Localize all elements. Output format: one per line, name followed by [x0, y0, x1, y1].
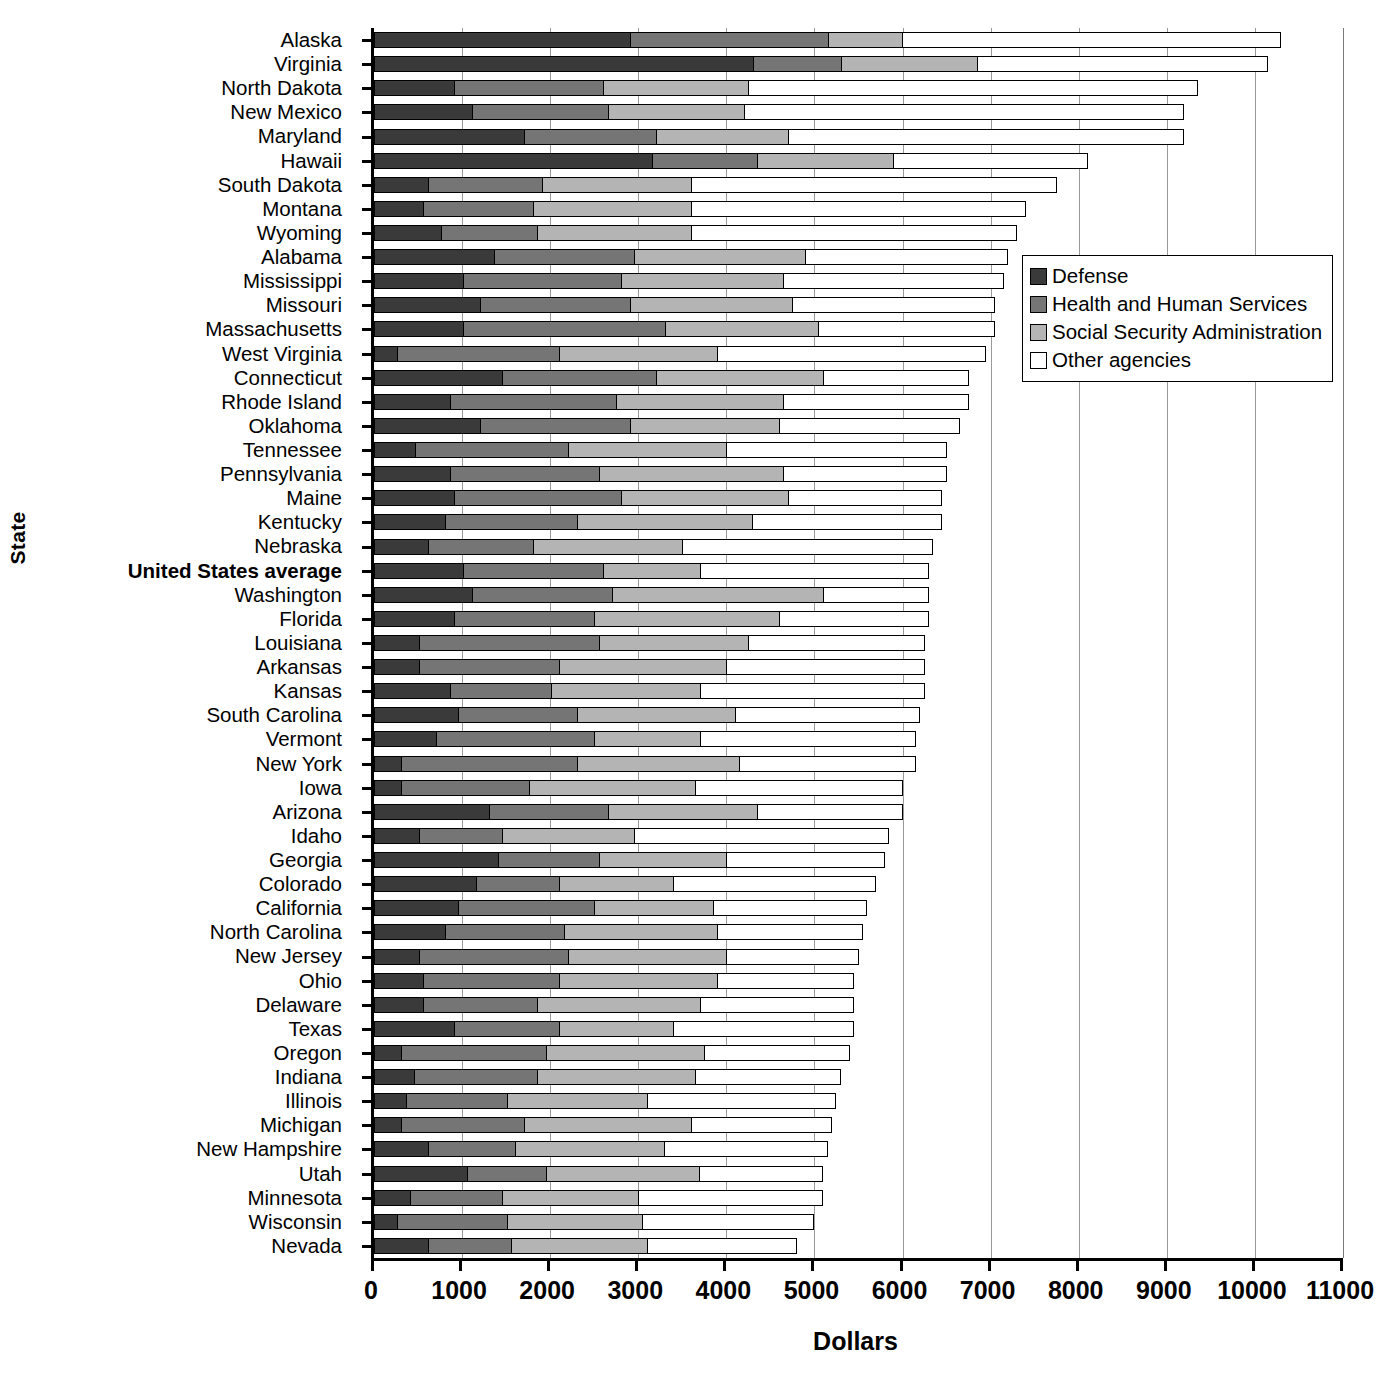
- legend-label: Other agencies: [1052, 348, 1191, 372]
- bar-segment-defense: [375, 708, 458, 722]
- y-axis-tick: [362, 377, 373, 380]
- stacked-bar[interactable]: [374, 973, 854, 989]
- stacked-bar[interactable]: [374, 1238, 797, 1254]
- stacked-bar[interactable]: [374, 153, 1088, 169]
- stacked-bar[interactable]: [374, 804, 903, 820]
- stacked-bar[interactable]: [374, 104, 1184, 120]
- stacked-bar[interactable]: [374, 659, 925, 675]
- stacked-bar[interactable]: [374, 707, 920, 723]
- stacked-bar[interactable]: [374, 876, 876, 892]
- plot-area: [371, 28, 1343, 1258]
- stacked-bar[interactable]: [374, 1166, 823, 1182]
- legend-item[interactable]: Social Security Administration: [1030, 318, 1322, 346]
- x-axis-label: 11000: [1306, 1276, 1374, 1305]
- y-axis-tick: [362, 787, 373, 790]
- stacked-bar[interactable]: [374, 321, 995, 337]
- y-axis-label: Kansas: [2, 679, 342, 703]
- y-axis-tick: [362, 39, 373, 42]
- bar-segment-ssa: [656, 130, 788, 144]
- stacked-bar[interactable]: [374, 273, 1004, 289]
- stacked-bar[interactable]: [374, 852, 885, 868]
- y-axis-tick: [362, 111, 373, 114]
- stacked-bar[interactable]: [374, 731, 916, 747]
- stacked-bar[interactable]: [374, 587, 929, 603]
- stacked-bar[interactable]: [374, 683, 925, 699]
- bar-row: [374, 559, 1343, 583]
- bar-segment-other: [642, 1215, 813, 1229]
- stacked-bar[interactable]: [374, 635, 925, 651]
- stacked-bar[interactable]: [374, 394, 969, 410]
- stacked-bar[interactable]: [374, 370, 969, 386]
- x-axis-tick: [811, 1258, 814, 1271]
- stacked-bar[interactable]: [374, 346, 986, 362]
- bar-segment-defense: [375, 491, 454, 505]
- bar-segment-defense: [375, 925, 445, 939]
- stacked-bar[interactable]: [374, 514, 942, 530]
- stacked-bar[interactable]: [374, 80, 1198, 96]
- stacked-bar[interactable]: [374, 490, 942, 506]
- stacked-bar[interactable]: [374, 249, 1008, 265]
- stacked-bar[interactable]: [374, 418, 960, 434]
- stacked-bar[interactable]: [374, 1069, 841, 1085]
- bar-segment-defense: [375, 298, 480, 312]
- y-axis-label: Maine: [2, 486, 342, 510]
- bar-segment-defense: [375, 419, 480, 433]
- legend-item[interactable]: Health and Human Services: [1030, 290, 1322, 318]
- bar-segment-hhs: [414, 1070, 537, 1084]
- stacked-bar[interactable]: [374, 1117, 832, 1133]
- y-axis-label: Alaska: [2, 28, 342, 52]
- stacked-bar[interactable]: [374, 129, 1184, 145]
- bar-segment-ssa: [568, 443, 726, 457]
- stacked-bar[interactable]: [374, 1190, 823, 1206]
- bar-segment-ssa: [502, 829, 634, 843]
- bar-segment-other: [818, 322, 994, 336]
- stacked-bar[interactable]: [374, 780, 903, 796]
- stacked-bar[interactable]: [374, 997, 854, 1013]
- legend-item[interactable]: Defense: [1030, 262, 1322, 290]
- stacked-bar[interactable]: [374, 828, 889, 844]
- stacked-bar[interactable]: [374, 924, 863, 940]
- stacked-bar[interactable]: [374, 1141, 828, 1157]
- stacked-bar[interactable]: [374, 1214, 814, 1230]
- bar-row: [374, 631, 1343, 655]
- stacked-bar[interactable]: [374, 1093, 836, 1109]
- y-axis-tick: [362, 1028, 373, 1031]
- bar-row: [374, 872, 1343, 896]
- legend-item[interactable]: Other agencies: [1030, 346, 1322, 374]
- legend-label: Defense: [1052, 264, 1128, 288]
- y-axis-label: Virginia: [2, 52, 342, 76]
- bar-rows: [374, 28, 1343, 1258]
- stacked-bar[interactable]: [374, 539, 933, 555]
- y-axis-tick: [362, 883, 373, 886]
- bar-row: [374, 1065, 1343, 1089]
- stacked-bar[interactable]: [374, 563, 929, 579]
- stacked-bar[interactable]: [374, 225, 1017, 241]
- legend-swatch-icon: [1030, 296, 1047, 313]
- y-axis-tick: [362, 907, 373, 910]
- bar-segment-other: [704, 1046, 849, 1060]
- stacked-bar[interactable]: [374, 756, 916, 772]
- stacked-bar[interactable]: [374, 442, 947, 458]
- bar-segment-defense: [375, 829, 419, 843]
- bar-segment-other: [977, 57, 1267, 71]
- stacked-bar[interactable]: [374, 56, 1268, 72]
- y-axis-label: Kentucky: [2, 510, 342, 534]
- stacked-bar[interactable]: [374, 177, 1057, 193]
- stacked-bar[interactable]: [374, 201, 1026, 217]
- stacked-bar[interactable]: [374, 1021, 854, 1037]
- stacked-bar[interactable]: [374, 466, 947, 482]
- bar-segment-defense: [375, 33, 630, 47]
- bar-segment-ssa: [599, 467, 783, 481]
- stacked-bar[interactable]: [374, 1045, 850, 1061]
- bar-segment-ssa: [665, 322, 819, 336]
- bar-segment-ssa: [551, 684, 700, 698]
- stacked-bar[interactable]: [374, 32, 1281, 48]
- bar-row: [374, 1089, 1343, 1113]
- stacked-bar[interactable]: [374, 949, 859, 965]
- stacked-bar[interactable]: [374, 611, 929, 627]
- bar-segment-defense: [375, 274, 463, 288]
- stacked-bar[interactable]: [374, 900, 867, 916]
- bar-segment-hhs: [498, 853, 599, 867]
- stacked-bar[interactable]: [374, 297, 995, 313]
- x-axis-tick: [371, 1258, 374, 1271]
